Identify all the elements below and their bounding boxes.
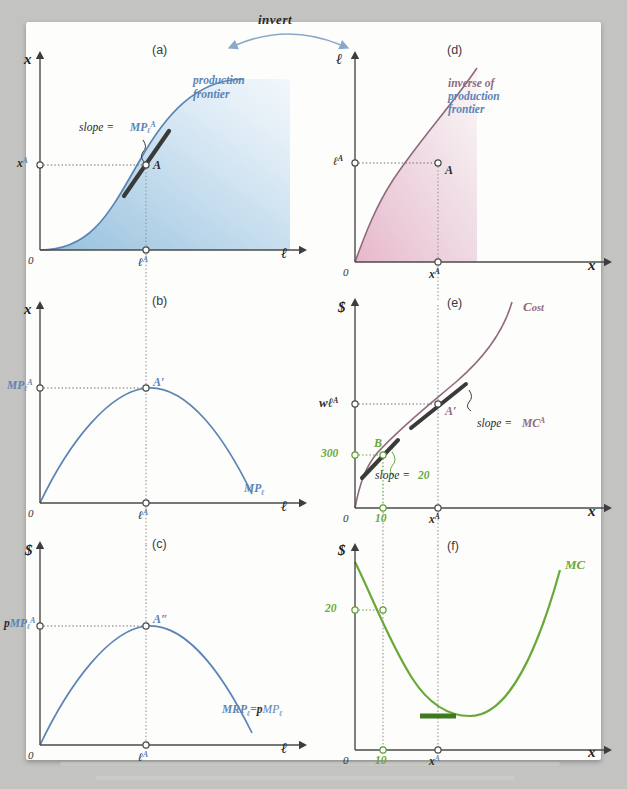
inverse-frontier-label-1: inverse of: [448, 78, 494, 90]
panel-e-slope-b-value: 20: [418, 470, 430, 482]
panel-b-ytick-marker: [37, 385, 43, 391]
panel-a-x-tick: ℓA: [138, 256, 148, 268]
mrp-label-mp-sub: ℓ: [279, 709, 282, 718]
panel-d-ytick-marker: [352, 160, 358, 166]
panel-a-x-tick-sup: A: [143, 255, 148, 264]
panel-d-origin: 0: [343, 267, 349, 278]
panel-f-x-tick-xA: xA: [429, 755, 440, 767]
panel-b-point-Aprime: [143, 385, 149, 391]
panel-c-tag: (c): [152, 538, 167, 551]
panel-e-x-tick-10: 10: [375, 513, 387, 525]
panel-c-y-tick-sup: A: [30, 616, 35, 625]
panel-a-shaded-area: [40, 79, 290, 250]
panel-f-xtick-10: [380, 747, 386, 753]
panel-d-x-tick: xA: [429, 268, 440, 280]
panel-b: [37, 300, 300, 506]
panel-e-point-B: [380, 452, 386, 458]
inverse-frontier-label-2: production: [448, 91, 500, 103]
panel-b-y-tick-sup: A: [28, 378, 33, 387]
panel-b-y-tick-base: MP: [7, 379, 24, 391]
panel-e-y-tick-wl-base: wℓ: [319, 395, 333, 410]
panel-a-slope-value: MPℓA: [130, 121, 156, 135]
panel-e-slope-a-sup: A: [540, 416, 545, 425]
panel-e-point-label-a: A′: [445, 405, 456, 417]
panel-d-xtick-marker: [435, 259, 441, 265]
invert-label: invert: [258, 13, 292, 26]
panel-f-x-tick-10: 10: [375, 755, 387, 767]
cost-curve-label: Cost: [523, 300, 544, 314]
panel-c-y-tick-base: MP: [10, 617, 27, 629]
panel-e-y-tick-wl-sup: A: [333, 396, 338, 405]
figure-page: invert (a) x ℓ 0 production frontier slo…: [0, 0, 627, 789]
panel-f: [352, 545, 605, 753]
panel-a-slope-sup: A: [151, 120, 156, 129]
panel-b-y-tick: MPℓA: [7, 379, 33, 393]
panel-d-point-A: [435, 160, 441, 166]
panel-f-origin: 0: [343, 755, 349, 766]
panel-e-ytick-wl: [352, 401, 358, 407]
panel-c-x-axis-label: ℓ: [281, 741, 287, 756]
panel-f-y-tick-20: 20: [325, 603, 337, 615]
panel-a-x-axis-label: ℓ: [281, 246, 287, 261]
panel-a-origin: 0: [28, 255, 34, 266]
panel-b-x-tick: ℓA: [138, 509, 148, 521]
mrp-label-base: MRP: [222, 703, 247, 715]
invert-arrow: [236, 34, 341, 45]
panel-e-x-axis-label: x: [588, 504, 596, 519]
panel-b-x-tick-sup: A: [143, 508, 148, 517]
panel-f-tag: (f): [447, 540, 459, 553]
mp-curve-label-sub: ℓ: [261, 488, 264, 497]
panel-a-xtick-marker: [143, 247, 149, 253]
mp-curve-label-base: MP: [244, 482, 261, 494]
panel-b-point-label: A′: [153, 376, 164, 388]
cost-label-ost: ost: [532, 302, 544, 313]
panel-d-x-tick-sup: A: [435, 267, 440, 276]
panel-d-point-label: A: [445, 164, 453, 176]
panel-d-tag: (d): [447, 44, 462, 57]
panel-c-x-tick-sup: A: [143, 750, 148, 759]
mrp-curve-label: MRPℓ=pMPℓ: [222, 704, 283, 717]
panel-e-slope-b-text: slope =: [375, 470, 410, 482]
panel-c-origin: 0: [28, 750, 34, 761]
panel-a-ytick-marker: [37, 162, 43, 168]
panel-c-point-Adblprime: [143, 623, 149, 629]
panel-f-ytick-20: [352, 607, 358, 613]
cost-label-c: C: [523, 299, 532, 314]
panel-b-origin: 0: [28, 508, 34, 519]
panel-a-point-A: [143, 162, 149, 168]
panel-a-y-tick: xA: [17, 157, 28, 169]
panel-f-x-axis-label: x: [588, 745, 596, 760]
panel-a-y-tick-sup: A: [23, 156, 28, 165]
panel-e-y-tick-300: 300: [321, 448, 338, 460]
panel-a-point-label: A: [153, 159, 161, 171]
production-frontier-label-2: frontier: [193, 89, 229, 101]
panel-c-xtick-marker: [143, 742, 149, 748]
panel-e-pointer-A: [467, 390, 471, 411]
panel-c-x-tick: ℓA: [138, 751, 148, 763]
panel-e-tag: (e): [447, 297, 462, 310]
panel-a-slope-text: slope =: [79, 122, 114, 134]
panel-b-x-axis-label: ℓ: [281, 499, 287, 514]
panel-d-y-tick: ℓA: [333, 155, 343, 167]
panel-f-xtick-xA: [435, 747, 441, 753]
panel-e-slope-a-base: MC: [522, 417, 540, 429]
panel-d-y-tick-sup: A: [338, 154, 343, 163]
panel-c-y-tick: pMPℓA: [4, 617, 35, 631]
panel-a-slope-base: MP: [130, 121, 147, 133]
panel-e-point-Aprime: [435, 401, 441, 407]
panel-c-y-axis-label: $: [25, 543, 33, 558]
panel-d-y-axis-label: ℓ: [336, 52, 342, 67]
panel-e-slope-a-text: slope =: [477, 418, 512, 430]
panel-e-y-tick-wl: wℓA: [319, 396, 338, 410]
panel-e-y-axis-label: $: [338, 300, 346, 315]
production-frontier-label-1: production: [193, 75, 245, 87]
panel-a-tag: (a): [152, 44, 167, 57]
panel-c: [37, 545, 300, 748]
panel-f-x-tick-sup: A: [435, 754, 440, 763]
panel-e-x-tick-sup: A: [435, 512, 440, 521]
panel-c-ytick-marker: [37, 623, 43, 629]
mc-curve: [355, 562, 560, 716]
panel-e-xtick-10: [380, 505, 386, 511]
panel-a: [37, 58, 300, 253]
panel-c-point-label: A″: [153, 613, 168, 625]
